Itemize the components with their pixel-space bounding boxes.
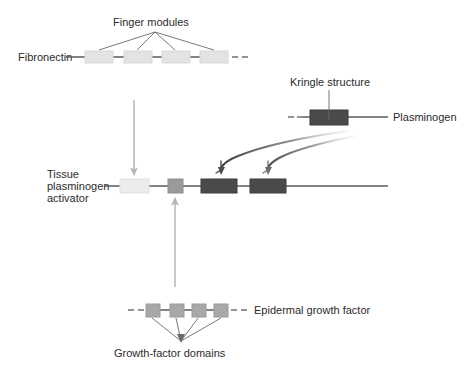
- finger-modules-label: Finger modules: [113, 16, 189, 28]
- tpa-label-line-1: Tissue: [47, 168, 79, 180]
- fibronectin-label: Fibronectin: [18, 51, 72, 63]
- plasminogen-chain: Plasminogen: [288, 110, 457, 125]
- egf-growth-factor-module: [192, 304, 206, 317]
- protein-module-diagram: Fibronectin Finger modules Plasminogen: [0, 0, 467, 375]
- curved-arrow-icon: [268, 136, 355, 168]
- tpa-label-line-2: plasminogen: [47, 180, 109, 192]
- egf-growth-factor-module: [146, 304, 160, 317]
- fibronectin-finger-module: [85, 51, 113, 63]
- plasminogen-label: Plasminogen: [393, 111, 457, 123]
- fibronectin-finger-module: [124, 51, 152, 63]
- tpa-kringle-module: [201, 179, 237, 193]
- growth-factor-leader-line: [181, 318, 198, 341]
- fibronectin-finger-module: [200, 51, 228, 63]
- finger-modules-annotation: Finger modules: [99, 16, 214, 50]
- arrow-kringle-to-tpa-first: [216, 131, 348, 175]
- finger-leader-line: [155, 32, 214, 50]
- kringle-structure-label: Kringle structure: [290, 76, 370, 88]
- epidermal-growth-factor-label: Epidermal growth factor: [254, 304, 370, 316]
- growth-factor-domains-annotation: Growth-factor domains: [114, 318, 226, 359]
- tpa-growth-factor-module: [168, 179, 183, 193]
- arrow-kringle-to-tpa-second: [263, 136, 355, 175]
- growth-factor-leader-line: [181, 318, 221, 341]
- egf-growth-factor-module: [170, 304, 184, 317]
- egf-chain: Epidermal growth factor: [128, 304, 370, 317]
- tpa-label-line-3: activator: [47, 192, 89, 204]
- tpa-kringle-module: [250, 179, 286, 193]
- tpa-chain: Tissue plasminogen activator: [47, 168, 388, 204]
- fibronectin-chain: Fibronectin: [18, 51, 248, 63]
- curved-arrow-icon: [221, 131, 348, 168]
- growth-factor-domains-label: Growth-factor domains: [114, 347, 226, 359]
- fibronectin-finger-module: [162, 51, 190, 63]
- egf-growth-factor-module: [214, 304, 228, 317]
- diagram-canvas: Fibronectin Finger modules Plasminogen: [0, 0, 467, 375]
- tpa-finger-module: [120, 179, 149, 193]
